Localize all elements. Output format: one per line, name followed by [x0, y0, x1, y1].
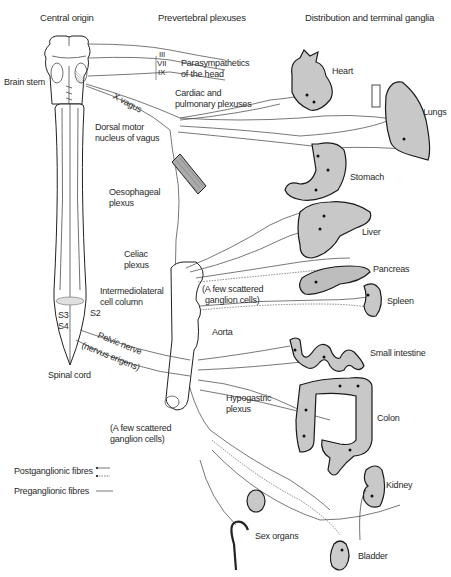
sex-organs-shape — [231, 490, 265, 570]
label-heart: Heart — [332, 66, 353, 77]
label-hypogastric-2: plexus — [226, 404, 251, 415]
label-cardiac-2: pulmonary plexuses — [175, 99, 251, 110]
label-cn-9: IX — [158, 67, 165, 78]
label-parasympathetics-2: of the head — [181, 69, 224, 80]
label-stomach: Stomach — [350, 172, 384, 183]
legend-postganglionic: Postganglionic fibres — [14, 466, 93, 477]
legend-preganglionic: Preganglionic fibres — [14, 486, 89, 497]
label-oesophageal-2: plexus — [109, 198, 134, 209]
heart-shape — [292, 50, 333, 110]
label-intermedio-2: cell column — [100, 297, 143, 308]
label-spleen: Spleen — [387, 296, 414, 307]
aorta-shape — [165, 262, 203, 410]
small-intestine-shape — [290, 338, 364, 371]
label-small-intestine: Small intestine — [370, 348, 426, 359]
label-hypogastric-1: Hypogastric — [226, 393, 271, 404]
label-celiac-1: Celiac — [124, 249, 148, 260]
label-lungs: Lungs — [423, 107, 447, 118]
label-brain-stem: Brain stem — [4, 77, 45, 88]
label-dorsal-2: nucleus of vagus — [95, 133, 159, 144]
label-sex-organs: Sex organs — [255, 531, 299, 542]
label-bladder: Bladder — [358, 551, 388, 562]
label-parasympathetics-1: Parasympathetics — [181, 58, 249, 69]
legend-lines — [96, 467, 113, 491]
brain-stem-shape — [45, 36, 90, 104]
label-aorta: Aorta — [212, 327, 233, 338]
liver-shape — [298, 202, 371, 258]
label-celiac-2: plexus — [124, 260, 149, 271]
label-pancreas: Pancreas — [373, 264, 409, 275]
label-dorsal-1: Dorsal motor — [95, 122, 144, 133]
pancreas-shape — [300, 266, 370, 294]
stomach-shape — [285, 143, 346, 200]
label-intermedio-1: Intermediolateral — [100, 286, 164, 297]
colon-shape — [296, 378, 372, 475]
bladder-shape — [330, 541, 349, 570]
label-spinal-cord: Spinal cord — [48, 370, 91, 381]
label-oesophageal-1: Oesophageal — [109, 187, 160, 198]
spleen-shape — [364, 284, 381, 317]
header-prevertebral: Prevertebral plexuses — [158, 12, 246, 23]
label-s3: S3 — [58, 310, 69, 321]
kidney-shape — [360, 466, 385, 540]
label-s2: S2 — [90, 308, 101, 319]
label-s4: S4 — [58, 321, 69, 332]
label-scattered-1: (A few scattered — [202, 284, 263, 295]
label-kidney: Kidney — [386, 480, 412, 491]
label-scattered-lower-1: (A few scattered — [110, 423, 171, 434]
header-distribution: Distribution and terminal ganglia — [305, 12, 434, 23]
label-scattered-lower-2: ganglion cells) — [110, 434, 165, 445]
header-central-origin: Central origin — [40, 12, 94, 23]
label-cardiac-1: Cardiac and — [175, 88, 221, 99]
lungs-shape — [372, 82, 430, 160]
label-colon: Colon — [377, 413, 400, 424]
label-liver: Liver — [362, 227, 381, 238]
label-scattered-2: ganglion cells) — [205, 295, 260, 306]
